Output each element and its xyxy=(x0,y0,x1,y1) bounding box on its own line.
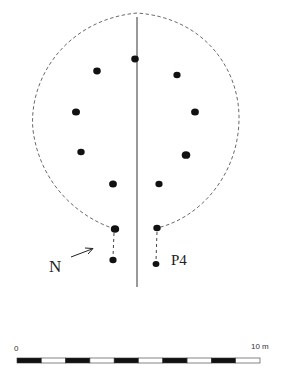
house-outline xyxy=(33,13,239,229)
scale-segment xyxy=(236,358,260,363)
left-entrance-connector xyxy=(113,233,114,257)
scale-end-label: 10 m xyxy=(251,342,269,351)
entrance-post-left-outer xyxy=(111,225,119,233)
scale-segment xyxy=(114,358,138,363)
scale-bar: 0 10 m xyxy=(14,342,269,363)
right-entrance-connector xyxy=(156,232,157,261)
north-arrow: N xyxy=(49,248,93,276)
scale-segment xyxy=(163,358,187,363)
entrance-posts xyxy=(109,225,160,267)
site-plan: N P4 0 10 m xyxy=(0,0,284,379)
post-hole xyxy=(77,149,84,156)
scale-segment xyxy=(66,358,90,363)
scale-segment xyxy=(139,358,163,363)
scale-start-label: 0 xyxy=(14,344,19,353)
post-hole xyxy=(155,181,162,187)
north-label: N xyxy=(49,257,61,276)
entrance-post-right-inner xyxy=(153,261,160,267)
scale-segment xyxy=(187,358,211,363)
scale-segment xyxy=(17,358,41,363)
post-hole xyxy=(93,68,101,75)
entrance-post-left-inner xyxy=(109,257,116,263)
post-label-p4: P4 xyxy=(171,252,187,268)
entrance-post-right-outer xyxy=(153,225,160,232)
post-hole xyxy=(131,56,139,63)
post-hole xyxy=(191,108,199,115)
scale-segment xyxy=(211,358,235,363)
scale-segments xyxy=(17,358,260,363)
post-hole xyxy=(109,180,117,187)
post-hole xyxy=(72,108,80,115)
scale-segment xyxy=(41,358,65,363)
post-hole xyxy=(173,72,180,78)
scale-segment xyxy=(90,358,114,363)
post-holes xyxy=(72,56,199,188)
post-hole xyxy=(182,151,191,159)
